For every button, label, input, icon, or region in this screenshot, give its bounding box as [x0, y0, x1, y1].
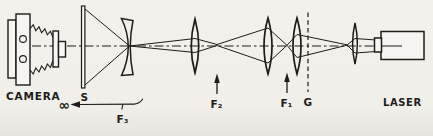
f3-arrow-curl: [135, 99, 143, 104]
infinity-f3-annotation: ∞ F₃: [59, 97, 143, 125]
optics-diagram-canvas: CAMERA S G LASER F₂ F₁ ∞ F₃: [0, 0, 433, 136]
camera-body: [16, 14, 30, 85]
infinity-label: ∞: [59, 97, 71, 113]
f1-arrowhead-icon: [284, 73, 290, 83]
infinity-arrowhead-icon: [71, 101, 81, 107]
screen-plate: [82, 6, 85, 88]
f3-label: F₃: [117, 113, 129, 125]
lens-laser-objective: [353, 23, 358, 64]
ray-laser-upper: [347, 39, 376, 46]
ray-relay-upper: [217, 28, 347, 58]
optical-setup-figure: CAMERA S G LASER F₂ F₁ ∞ F₃: [0, 0, 433, 136]
ray-screen-bottom: [85, 46, 130, 85]
camera-assembly: [8, 14, 66, 85]
f2-label: F₂: [211, 98, 223, 110]
camera-label: CAMERA: [6, 90, 61, 102]
camera-knob-top: [20, 36, 27, 43]
f2-arrowhead-icon: [214, 74, 220, 84]
f1-label: F₁: [281, 97, 293, 109]
bellows-top: [30, 25, 53, 38]
bellows-bottom: [30, 61, 53, 75]
ray-screen-top: [85, 9, 130, 46]
screen-label: S: [81, 91, 89, 103]
laser-assembly: [375, 32, 425, 60]
ray-fan-upper: [130, 39, 218, 47]
f2-marker: F₂: [211, 74, 223, 111]
concave-lens: [122, 19, 134, 76]
laser-aperture: [375, 38, 382, 52]
camera-back-plate: [8, 20, 16, 78]
laser-label: LASER: [383, 97, 422, 108]
camera-knob-bottom: [20, 56, 27, 63]
f3-tick: [122, 104, 123, 109]
ray-fan-lower: [130, 46, 218, 53]
ray-relay-lower: [217, 35, 347, 64]
lens-board: [53, 31, 59, 67]
f1-marker: F₁: [281, 73, 293, 109]
camera-lens-barrel: [59, 42, 66, 58]
grating-label: G: [304, 96, 313, 108]
